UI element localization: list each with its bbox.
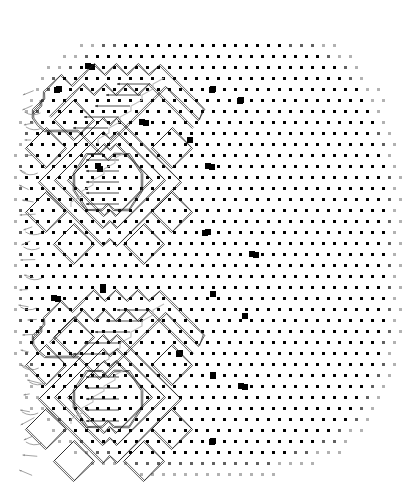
lattice-defect-diagram (0, 0, 410, 498)
figure-root (0, 0, 410, 498)
